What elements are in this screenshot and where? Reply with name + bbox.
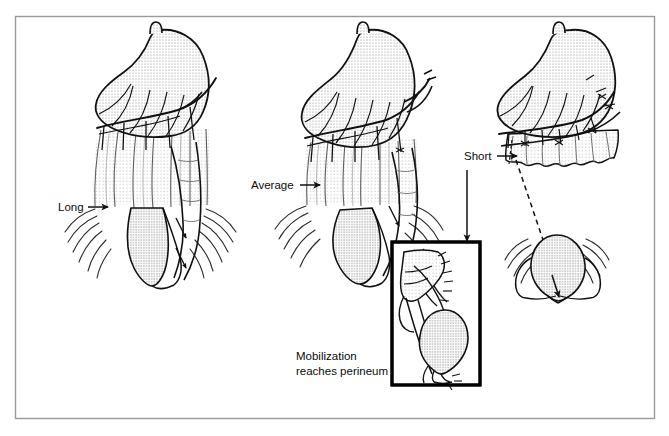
label-long: Long <box>58 201 84 213</box>
average-mesentery-sheet <box>304 138 420 206</box>
medical-illustration-canvas: Long <box>0 0 669 436</box>
figure-root: Long <box>0 0 669 436</box>
inset-caption-line-2: reaches perineum <box>296 365 388 377</box>
inset-caption-line-1: Mobilization <box>296 350 357 362</box>
label-short: Short <box>464 150 492 162</box>
label-average: Average <box>251 179 294 191</box>
